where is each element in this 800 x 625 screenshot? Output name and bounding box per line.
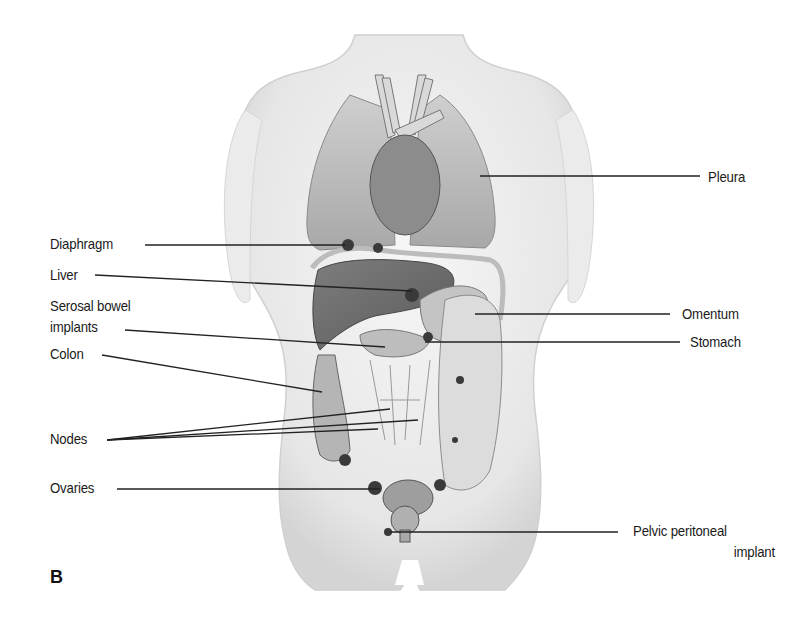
panel-label: B [50, 567, 63, 588]
label-pelvic-line2: implant [734, 543, 775, 561]
label-stomach: Stomach [690, 333, 741, 351]
label-diaphragm: Diaphragm [50, 235, 113, 253]
label-serosal-line1: Serosal bowel [50, 297, 131, 315]
label-ovaries: Ovaries [50, 479, 94, 497]
label-pleura: Pleura [708, 168, 745, 186]
omentum [439, 295, 502, 490]
label-nodes: Nodes [50, 430, 87, 448]
label-pelvic-line1: Pelvic peritoneal [633, 522, 727, 540]
label-serosal-line2: implants [50, 318, 98, 336]
label-omentum: Omentum [682, 305, 739, 323]
heart [370, 135, 440, 235]
label-liver: Liver [50, 266, 78, 284]
label-colon: Colon [50, 345, 84, 363]
